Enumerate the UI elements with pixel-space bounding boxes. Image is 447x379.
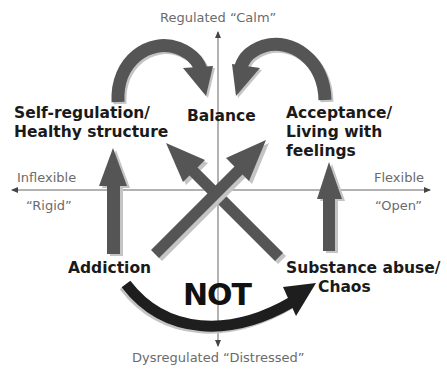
- not-label: NOT: [183, 277, 251, 312]
- node-acceptance-line3: feelings: [286, 142, 392, 161]
- curved-arrow-acceptance-to-balance: [232, 44, 327, 102]
- node-acceptance-line2: Living with: [286, 123, 392, 142]
- diagonal-arrow-substance-abuse-to-self-regulation: [166, 143, 286, 264]
- axis-label-rigid: “Rigid”: [26, 198, 72, 213]
- node-addiction-line1: Addiction: [68, 259, 151, 278]
- up-arrow-addiction-to-self-regulation: [99, 148, 130, 256]
- node-substance-abuse-line1: Substance abuse/: [286, 259, 441, 278]
- node-acceptance-line1: Acceptance/: [286, 104, 392, 123]
- node-substance-abuse-line2: Chaos: [286, 278, 441, 297]
- axis-label-inflexible: Inflexible: [17, 170, 76, 185]
- axis-label-regulated: Regulated “Calm”: [160, 10, 276, 25]
- node-self-regulation-line1: Self-regulation/: [14, 104, 168, 123]
- node-substance-abuse: Substance abuse/ Chaos: [286, 259, 441, 297]
- node-balance: Balance: [187, 107, 256, 126]
- up-arrow-substance-abuse-to-acceptance: [317, 162, 345, 253]
- node-balance-line1: Balance: [187, 107, 256, 126]
- diagonal-arrow-addiction-to-acceptance: [151, 140, 269, 261]
- node-self-regulation-line2: Healthy structure: [14, 123, 168, 142]
- diagram-graphics: [0, 0, 447, 379]
- node-acceptance: Acceptance/ Living with feelings: [286, 104, 392, 161]
- axis-label-open: “Open”: [375, 198, 422, 213]
- node-self-regulation: Self-regulation/ Healthy structure: [14, 104, 168, 142]
- diagram: Regulated “Calm” Dysregulated “Distresse…: [0, 0, 447, 379]
- node-addiction: Addiction: [68, 259, 151, 278]
- axis-label-flexible: Flexible: [374, 170, 424, 185]
- axis-label-dysregulated: Dysregulated “Distressed”: [132, 350, 305, 365]
- curved-arrow-self-regulation-to-balance: [118, 46, 215, 104]
